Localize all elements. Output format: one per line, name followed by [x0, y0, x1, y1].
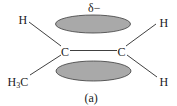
- figure-caption: (a): [85, 91, 98, 105]
- atom-h-bottom-right: H: [160, 75, 169, 89]
- atom-h-top-right: H: [160, 16, 169, 30]
- atom-carbon-right: C: [118, 45, 126, 59]
- atom-carbon-left: C: [61, 45, 69, 59]
- methyl-group-label: H3C: [8, 75, 29, 90]
- pi-bond-diagram: δ− C C H H H H3C (a): [0, 0, 177, 106]
- pi-lobe-bottom: [56, 61, 131, 81]
- methyl-h: H: [8, 75, 17, 89]
- methyl-c: C: [20, 75, 28, 89]
- atom-h-top-left: H: [19, 13, 28, 27]
- partial-charge-label: δ−: [88, 1, 101, 15]
- bond-c-h-top-right: [126, 24, 156, 46]
- pi-lobe-top: [56, 15, 131, 33]
- bond-c-h-bottom-right: [127, 55, 157, 77]
